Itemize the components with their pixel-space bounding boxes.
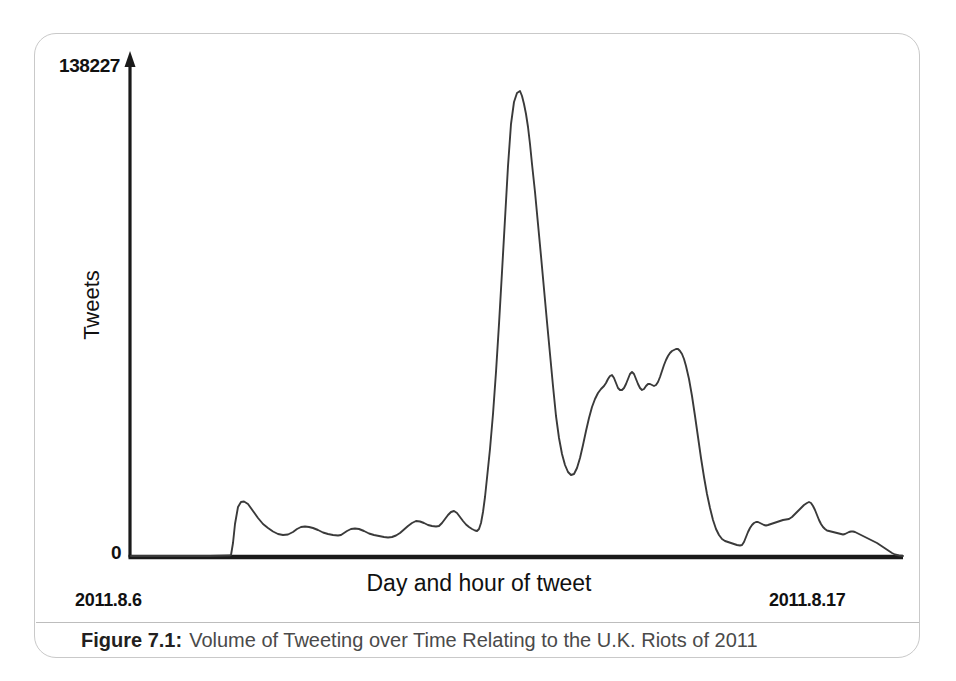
x-axis-start-label: 2011.8.6 <box>75 590 142 611</box>
x-axis-title: Day and hour of tweet <box>279 570 679 597</box>
y-axis <box>125 51 136 558</box>
tweet-volume-line-chart <box>35 34 921 622</box>
figure-caption: Figure 7.1: Volume of Tweeting over Time… <box>35 623 921 658</box>
y-axis-zero-label: 0 <box>111 542 122 564</box>
figure-caption-text: Volume of Tweeting over Time Relating to… <box>189 629 757 652</box>
tweet-volume-line <box>131 91 903 556</box>
figure-caption-label: Figure 7.1: <box>81 629 182 652</box>
x-axis-end-label: 2011.8.17 <box>769 590 845 611</box>
y-axis-title: Tweets <box>79 245 105 365</box>
y-axis-max-label: 138227 <box>59 55 120 77</box>
chart-plot-area: 138227 0 Tweets Day and hour of tweet 20… <box>35 34 921 622</box>
figure-card: 138227 0 Tweets Day and hour of tweet 20… <box>34 33 920 658</box>
